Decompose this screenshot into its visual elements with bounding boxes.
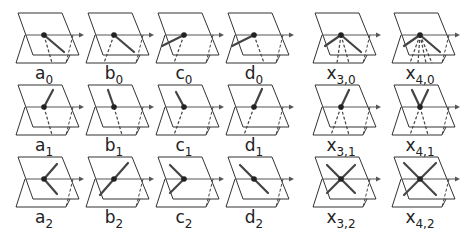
panel-d1: [226, 85, 294, 135]
label-base: a: [35, 63, 45, 83]
vertex-dot: [338, 176, 344, 182]
label-base: x: [405, 63, 415, 83]
axis-arrow-icon: [219, 105, 224, 110]
panel-label-d0: d0: [245, 65, 263, 86]
vertex-dot: [41, 104, 47, 110]
panel-x41: [392, 85, 460, 135]
label-subscript: 0: [116, 73, 124, 87]
upper-plane: [228, 157, 289, 199]
axis-arrow-icon: [455, 177, 460, 182]
label-base: a: [35, 207, 45, 227]
axis-arrow-icon: [376, 105, 381, 110]
upper-plane: [18, 85, 79, 127]
vertex-dot: [181, 104, 187, 110]
label-subscript: 2: [45, 217, 53, 231]
vertex-dot: [251, 32, 257, 38]
axis-arrow-icon: [79, 105, 84, 110]
panel-label-x41: x4,1: [405, 137, 434, 158]
axis-arrow-icon: [289, 33, 294, 38]
vertex-dot: [417, 32, 423, 38]
panel-label-c1: c1: [176, 137, 193, 158]
axis-arrow-icon: [149, 33, 154, 38]
label-subscript: 3,0: [336, 73, 355, 87]
vertex-dot: [111, 104, 117, 110]
label-subscript: 0: [256, 73, 264, 87]
panel-label-b2: b2: [105, 209, 123, 230]
label-base: d: [245, 63, 256, 83]
upper-plane: [315, 157, 376, 199]
label-subscript: 4,1: [415, 145, 434, 159]
axis-arrow-icon: [376, 177, 381, 182]
axis-arrow-icon: [219, 177, 224, 182]
panel-label-a0: a0: [35, 65, 53, 86]
label-base: c: [176, 63, 185, 83]
label-base: x: [405, 135, 415, 155]
panel-c2: [156, 157, 224, 207]
upper-plane: [394, 85, 455, 127]
label-base: x: [326, 135, 336, 155]
panel-label-c2: c2: [176, 209, 193, 230]
panel-label-d2: d2: [245, 209, 263, 230]
panel-label-d1: d1: [245, 137, 263, 158]
panel-b2: [86, 157, 154, 207]
label-subscript: 3,2: [336, 217, 355, 231]
label-subscript: 0: [185, 73, 193, 87]
vertex-dot: [41, 176, 47, 182]
panel-x42: [392, 157, 460, 207]
label-base: x: [326, 63, 336, 83]
axis-arrow-icon: [376, 33, 381, 38]
panel-label-x31: x3,1: [326, 137, 355, 158]
label-subscript: 4,2: [415, 217, 434, 231]
label-base: c: [176, 207, 185, 227]
panel-label-c0: c0: [176, 65, 193, 86]
label-base: c: [176, 135, 185, 155]
upper-plane: [88, 85, 149, 127]
label-subscript: 1: [256, 145, 264, 159]
axis-arrow-icon: [79, 33, 84, 38]
vertex-dot: [181, 32, 187, 38]
label-subscript: 0: [45, 73, 53, 87]
label-base: x: [405, 207, 415, 227]
panel-a1: [16, 85, 84, 135]
axis-arrow-icon: [455, 33, 460, 38]
label-base: b: [105, 135, 116, 155]
upper-plane: [158, 13, 219, 55]
label-base: a: [35, 135, 45, 155]
vertex-dot: [338, 104, 344, 110]
upper-plane: [315, 85, 376, 127]
diagram-canvas: [0, 0, 474, 238]
panel-a2: [16, 157, 84, 207]
panel-b1: [86, 85, 154, 135]
panel-d2: [226, 157, 294, 207]
label-subscript: 3,1: [336, 145, 355, 159]
panel-label-b1: b1: [105, 137, 123, 158]
upper-plane: [228, 13, 289, 55]
panel-b0: [86, 13, 154, 63]
vertex-dot: [251, 104, 257, 110]
label-base: b: [105, 63, 116, 83]
label-subscript: 4,0: [415, 73, 434, 87]
vertex-dot: [338, 32, 344, 38]
upper-plane: [18, 157, 79, 199]
axis-arrow-icon: [149, 177, 154, 182]
upper-plane: [315, 13, 376, 55]
panel-label-x42: x4,2: [405, 209, 434, 230]
label-subscript: 2: [185, 217, 193, 231]
axis-arrow-icon: [219, 33, 224, 38]
panel-label-a2: a2: [35, 209, 53, 230]
vertex-dot: [181, 176, 187, 182]
panel-label-x30: x3,0: [326, 65, 355, 86]
upper-plane: [88, 13, 149, 55]
panel-x31: [313, 85, 381, 135]
panel-label-a1: a1: [35, 137, 53, 158]
vertex-dot: [417, 176, 423, 182]
panel-x40: [392, 13, 460, 63]
panel-label-x32: x3,2: [326, 209, 355, 230]
axis-arrow-icon: [79, 177, 84, 182]
label-subscript: 1: [185, 145, 193, 159]
label-subscript: 2: [116, 217, 124, 231]
label-subscript: 1: [45, 145, 53, 159]
label-base: b: [105, 207, 116, 227]
vertex-dot: [417, 104, 423, 110]
label-subscript: 2: [256, 217, 264, 231]
